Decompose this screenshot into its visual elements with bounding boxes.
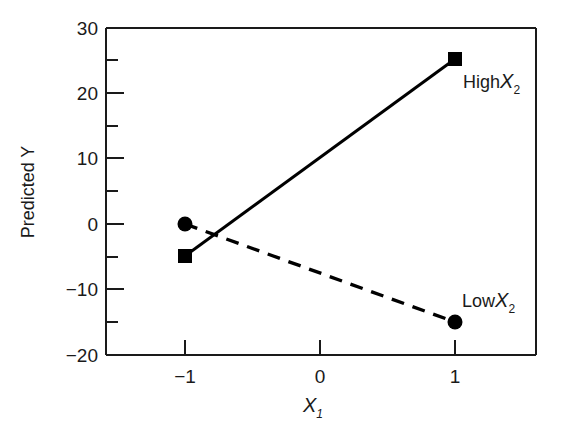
y-tick-label-0: 0 <box>87 214 98 235</box>
series-label-high-x2-text: High <box>463 72 500 92</box>
y-tick-label-minus-20: −20 <box>66 345 98 366</box>
x-axis-title-subscript: 1 <box>316 407 323 421</box>
series-marker-low-x2-left <box>178 217 193 232</box>
y-tick-label-10: 10 <box>77 148 98 169</box>
predicted-y-interaction-chart: 30 20 10 0 −10 −20 −1 0 1 X1 Predicted Y… <box>0 0 564 433</box>
series-label-high-x2-subscript: 2 <box>513 83 520 97</box>
series-marker-high-x2-right <box>448 52 462 66</box>
y-tick-label-20: 20 <box>77 83 98 104</box>
x-axis-title-variable: X <box>302 394 317 416</box>
series-label-high-x2-variable: X <box>499 70 514 92</box>
x-tick-label-minus-1: −1 <box>174 366 196 387</box>
x-tick-label-1: 1 <box>450 366 461 387</box>
series-marker-low-x2-right <box>448 315 463 330</box>
y-axis-title: Predicted Y <box>18 146 38 239</box>
series-label-low-x2-subscript: 2 <box>508 302 515 316</box>
y-tick-label-30: 30 <box>77 18 98 39</box>
series-label-low-x2-text: Low <box>462 291 496 311</box>
x-tick-label-0: 0 <box>315 366 326 387</box>
figure-background <box>0 0 564 433</box>
y-tick-label-minus-10: −10 <box>66 279 98 300</box>
series-marker-high-x2-left <box>178 249 192 263</box>
series-label-low-x2-variable: X <box>494 289 509 311</box>
